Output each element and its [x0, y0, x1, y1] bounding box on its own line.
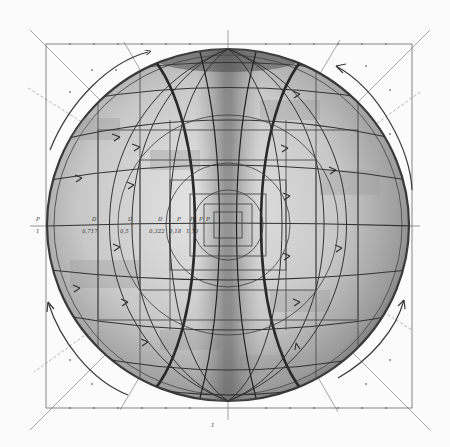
axis-label: P	[205, 216, 210, 222]
axis-value: 0,717	[82, 228, 98, 234]
axis-value: 1	[36, 228, 40, 234]
bottom-mark: 1	[211, 422, 215, 428]
sphere-diagram: P D D D P P P P 1 0,717 0,5 0,322 0,18 1…	[0, 0, 450, 447]
axis-label: D	[157, 216, 163, 222]
drawing-canvas: P D D D P P P P 1 0,717 0,5 0,322 0,18 1…	[0, 0, 450, 447]
axis-value: 0,18	[169, 228, 182, 234]
axis-label: D	[91, 216, 97, 222]
axis-label: D	[127, 216, 133, 222]
axis-value: 0,322	[149, 228, 165, 234]
axis-label: P	[198, 216, 203, 222]
axis-value: 0,5	[120, 228, 129, 234]
axis-label: P	[35, 216, 40, 222]
axis-label: P	[176, 216, 181, 222]
axis-value: 1,70	[186, 228, 199, 234]
sphere-grid	[46, 40, 412, 410]
axis-label: P	[189, 216, 194, 222]
